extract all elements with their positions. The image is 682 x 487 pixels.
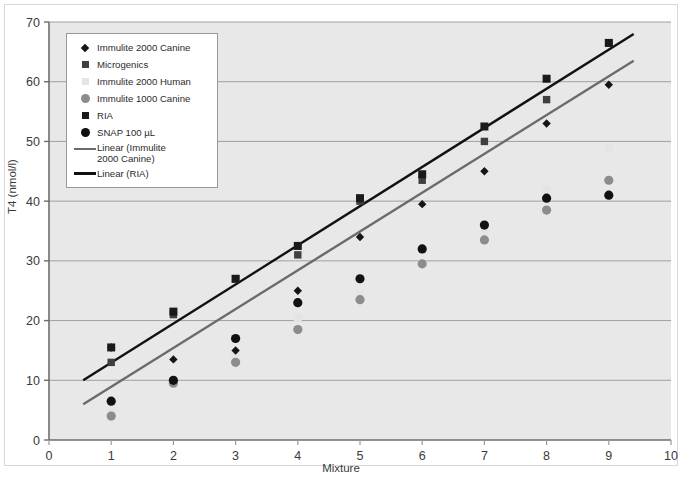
- line-icon: [73, 141, 97, 157]
- legend-label: SNAP 100 µL: [97, 127, 155, 138]
- data-point: [231, 334, 240, 343]
- y-tick-label-10: 10: [26, 374, 40, 388]
- y-tick-label-30: 30: [26, 254, 40, 268]
- square-icon: [73, 56, 97, 73]
- legend-label: RIA: [97, 110, 113, 121]
- data-point: [418, 259, 427, 268]
- data-point: [605, 143, 613, 151]
- legend-item-2: Immulite 2000 Human: [73, 73, 212, 90]
- chart-page: 010203040506070012345678910 T4 (nmol/l) …: [0, 0, 682, 487]
- y-tick-label-60: 60: [26, 75, 40, 89]
- data-point: [108, 359, 115, 366]
- data-point: [543, 185, 551, 193]
- square-icon: [73, 107, 97, 124]
- y-axis-label: T4 (nmol/l): [6, 159, 18, 214]
- legend-item-0: Immulite 2000 Canine: [73, 39, 212, 56]
- x-axis-label: Mixture: [0, 462, 682, 474]
- data-point: [480, 220, 489, 229]
- data-point: [542, 206, 551, 215]
- line-icon: [73, 165, 97, 182]
- legend-label: Microgenics: [97, 59, 148, 70]
- legend-item-3: Immulite 1000 Canine: [73, 90, 212, 107]
- legend-label-line: Linear (Immulite: [97, 142, 166, 153]
- data-point: [169, 376, 178, 385]
- data-point: [107, 397, 116, 406]
- legend-item-6: Linear (Immulite2000 Canine): [73, 141, 212, 165]
- x-tick-label-2: 2: [170, 449, 177, 463]
- diamond-icon: [73, 39, 97, 56]
- legend-item-7: Linear (RIA): [73, 165, 212, 182]
- circle-icon: [73, 90, 97, 107]
- x-tick-label-0: 0: [46, 449, 53, 463]
- x-tick-label-3: 3: [232, 449, 239, 463]
- x-tick-label-7: 7: [481, 449, 488, 463]
- x-tick-label-6: 6: [419, 449, 426, 463]
- data-point: [355, 274, 364, 283]
- x-tick-label-8: 8: [543, 449, 550, 463]
- data-point: [604, 191, 613, 200]
- x-tick-label-10: 10: [664, 449, 678, 463]
- square-icon: [73, 73, 97, 90]
- data-point: [294, 251, 301, 258]
- x-tick-label-5: 5: [357, 449, 364, 463]
- legend-item-5: SNAP 100 µL: [73, 124, 212, 141]
- data-point: [231, 358, 240, 367]
- data-point: [169, 308, 177, 316]
- legend-label-line: 2000 Canine): [97, 153, 166, 164]
- data-point: [293, 325, 302, 334]
- data-point: [107, 343, 115, 351]
- y-tick-label-20: 20: [26, 314, 40, 328]
- y-tick-label-50: 50: [26, 135, 40, 149]
- circle-icon: [73, 124, 97, 141]
- data-point: [293, 298, 302, 307]
- data-point: [355, 295, 364, 304]
- data-point: [356, 194, 364, 202]
- data-point: [232, 275, 240, 283]
- legend-item-4: RIA: [73, 107, 212, 124]
- x-tick-label-4: 4: [294, 449, 301, 463]
- legend-item-1: Microgenics: [73, 56, 212, 73]
- legend-label: Immulite 2000 Human: [97, 76, 191, 87]
- x-tick-label-1: 1: [108, 449, 115, 463]
- data-point: [418, 244, 427, 253]
- data-point: [542, 194, 551, 203]
- data-point: [481, 138, 488, 145]
- legend-label: Linear (Immulite2000 Canine): [97, 141, 166, 164]
- data-point: [543, 96, 550, 103]
- data-point: [543, 75, 551, 83]
- data-point: [294, 314, 302, 322]
- data-point: [418, 170, 426, 178]
- data-point: [480, 123, 488, 131]
- legend-label: Linear (RIA): [97, 168, 149, 179]
- x-tick-label-9: 9: [605, 449, 612, 463]
- y-tick-label-40: 40: [26, 195, 40, 209]
- data-point: [480, 235, 489, 244]
- y-tick-label-0: 0: [33, 434, 40, 448]
- legend-label: Immulite 1000 Canine: [97, 93, 190, 104]
- data-point: [107, 412, 116, 421]
- data-point: [604, 176, 613, 185]
- data-point: [294, 242, 302, 250]
- y-tick-label-70: 70: [26, 16, 40, 30]
- legend-label: Immulite 2000 Canine: [97, 42, 190, 53]
- chart-legend: Immulite 2000 CanineMicrogenicsImmulite …: [66, 33, 218, 188]
- data-point: [605, 39, 613, 47]
